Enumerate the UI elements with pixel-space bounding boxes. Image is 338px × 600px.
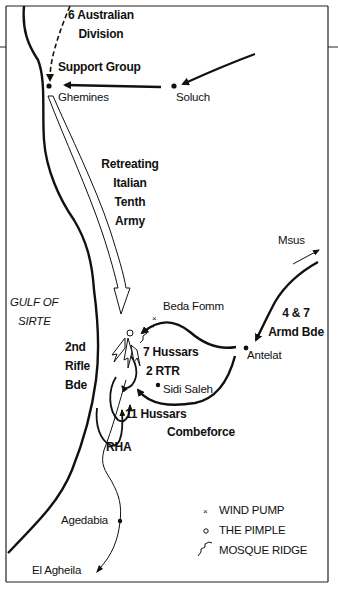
coastline	[8, 6, 98, 553]
mosque-ridge-marker	[140, 326, 154, 343]
australian-division-label: 6 Australian Division	[68, 6, 134, 44]
hussars11-label: 11 Hussars	[125, 408, 186, 420]
beda-fomm-label: Beda Fomm	[163, 301, 224, 313]
italian-army-line2: Italian	[98, 174, 162, 193]
wind-pump-marker: ×	[152, 314, 157, 323]
ghemines-label: Ghemines	[58, 92, 109, 104]
support-group-arrow	[65, 85, 161, 87]
el-agheila-label: El Agheila	[32, 565, 81, 577]
legend-wind-pump-icon: ×	[203, 507, 208, 516]
legend-symbols: ×	[198, 507, 212, 556]
msus-label: Msus	[278, 235, 305, 247]
support-group-label: Support Group	[58, 61, 141, 73]
soluch-dot	[171, 83, 176, 88]
road-south	[100, 380, 126, 568]
gulf-line2: SIRTE	[10, 312, 58, 331]
italian-army-label: Retreating Italian Tenth Army	[98, 155, 162, 231]
sidi-saleh-label: Sidi Saleh	[163, 384, 213, 396]
italian-army-line3: Tenth	[98, 193, 162, 212]
rtr2-label: 2 RTR	[146, 365, 180, 377]
agedabia-label: Agedabia	[61, 515, 108, 527]
rifle-bde-line2: Rifle	[65, 357, 90, 376]
antelat-label: Antelat	[247, 350, 281, 362]
armd-bde-line1: 4 & 7	[264, 304, 328, 323]
australian-division-line1: 6 Australian	[68, 6, 134, 25]
hussars7-label: 7 Hussars	[143, 346, 199, 358]
gulf-of-sirte-label: GULF OF SIRTE	[10, 293, 58, 331]
rifle-bde-line1: 2nd	[65, 338, 90, 357]
armd-bde-line2: Armd Bde	[264, 323, 328, 342]
msus-arrow	[293, 250, 319, 264]
ghemines-dot	[46, 83, 51, 88]
soluch-approach-arrow	[183, 54, 255, 84]
italian-army-line1: Retreating	[98, 155, 162, 174]
gulf-line1: GULF OF	[10, 293, 58, 312]
legend-pimple-icon	[204, 529, 208, 533]
legend-mosque-ridge-icon	[198, 542, 212, 556]
rifle-bde-line3: Bde	[65, 376, 90, 395]
legend-pimple-label: THE PIMPLE	[219, 525, 285, 537]
legend-mosque-ridge-label: MOSQUE RIDGE	[219, 545, 307, 557]
italian-army-line4: Army	[98, 212, 162, 231]
sidi-saleh-dot	[156, 383, 160, 387]
combeforce-label: Combeforce	[167, 426, 235, 438]
legend-wind-pump-label: WIND PUMP	[219, 505, 284, 517]
australian-division-line2: Division	[68, 25, 134, 44]
armd-bde-label: 4 & 7 Armd Bde	[264, 304, 328, 342]
soluch-label: Soluch	[176, 92, 210, 104]
pimple-marker	[127, 330, 133, 336]
rifle-bde-label: 2nd Rifle Bde	[65, 338, 90, 395]
rha-label: RHA	[106, 441, 131, 453]
